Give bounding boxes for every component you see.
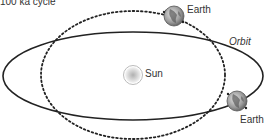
earth-icon-bottom: [227, 91, 247, 111]
earth-label-bottom: Earth: [240, 115, 264, 125]
sun-label: Sun: [145, 69, 163, 79]
orbit-label: Orbit: [229, 37, 251, 47]
orbit-diagram: [0, 0, 268, 140]
sun-icon: [124, 66, 143, 85]
earth-label-top: Earth: [187, 5, 211, 15]
diagram-title: 100 ka cycle: [0, 0, 56, 7]
earth-icon-top: [163, 6, 184, 26]
